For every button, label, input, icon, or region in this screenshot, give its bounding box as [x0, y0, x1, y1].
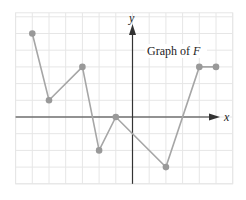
- data-point: [29, 30, 36, 37]
- data-point: [79, 64, 86, 71]
- data-point: [96, 147, 103, 154]
- annotation-function-name: F: [192, 44, 201, 58]
- data-point: [46, 97, 53, 104]
- annotation-prefix: Graph of: [147, 44, 193, 58]
- data-point: [163, 164, 170, 171]
- data-point: [113, 114, 120, 121]
- data-point: [213, 64, 220, 71]
- x-axis-arrow-icon: [209, 114, 220, 121]
- y-axis-arrow-icon: [129, 24, 136, 35]
- y-axis-label: y: [128, 11, 135, 25]
- graph-of-f-chart: Graph of F x y: [0, 0, 246, 200]
- data-point: [196, 64, 203, 71]
- x-axis-label: x: [223, 110, 230, 124]
- graph-annotation: Graph of F: [147, 44, 201, 58]
